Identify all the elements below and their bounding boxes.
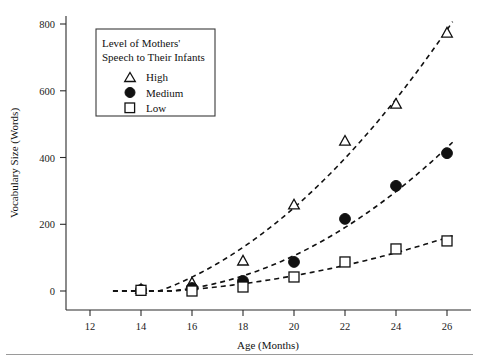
y-tick-label-800: 800 <box>39 19 55 30</box>
figure-footer-rule <box>6 354 473 355</box>
x-tick-label-20: 20 <box>289 321 300 332</box>
data-point-open-square <box>442 236 452 246</box>
x-tick-label-14: 14 <box>136 321 147 332</box>
legend-title-line1: Level of Mothers' <box>102 37 180 49</box>
chart-legend: Level of Mothers' Speech to Their Infant… <box>96 29 215 116</box>
x-tick-label-24: 24 <box>391 321 402 332</box>
legend-label-high: High <box>146 71 169 83</box>
y-tick-label-0: 0 <box>50 286 55 297</box>
data-point-open-square <box>289 272 299 282</box>
data-point-open-square <box>340 257 350 267</box>
legend-label-medium: Medium <box>146 87 184 99</box>
data-point-filled-circle <box>289 257 300 268</box>
data-point-open-triangle <box>340 136 351 146</box>
data-point-open-square <box>391 244 401 254</box>
data-point-open-square <box>238 282 248 292</box>
x-axis: 12 14 16 18 20 22 24 26 Age (Months) <box>66 310 471 352</box>
x-tick-label-16: 16 <box>187 321 198 332</box>
legend-filled-circle-icon <box>125 88 135 98</box>
legend-title-line2: Speech to Their Infants <box>102 51 205 63</box>
y-tick-label-600: 600 <box>39 86 55 97</box>
x-tick-label-22: 22 <box>340 321 351 332</box>
x-tick-label-26: 26 <box>442 321 453 332</box>
data-point-open-triangle <box>238 255 249 265</box>
x-tick-label-18: 18 <box>238 321 249 332</box>
data-point-open-triangle <box>391 99 402 109</box>
y-tick-label-400: 400 <box>39 153 55 164</box>
y-tick-label-200: 200 <box>39 219 55 230</box>
y-axis: 800 600 400 200 0 Vocabulary Size (Words… <box>8 16 66 310</box>
legend-label-low: Low <box>146 102 166 114</box>
data-point-filled-circle <box>391 180 402 191</box>
chart-canvas: 800 600 400 200 0 Vocabulary Size (Words… <box>0 0 479 360</box>
x-axis-title: Age (Months) <box>237 339 299 352</box>
data-point-open-square <box>136 285 146 295</box>
data-point-open-triangle <box>442 27 453 37</box>
y-axis-title: Vocabulary Size (Words) <box>8 108 21 218</box>
x-tick-label-12: 12 <box>85 321 96 332</box>
chart-figure: 800 600 400 200 0 Vocabulary Size (Words… <box>0 0 479 360</box>
data-point-open-square <box>187 286 197 296</box>
legend-open-square-icon <box>125 103 135 113</box>
trend-curve-low <box>113 236 453 291</box>
data-point-filled-circle <box>442 148 453 159</box>
data-point-filled-circle <box>340 214 351 225</box>
